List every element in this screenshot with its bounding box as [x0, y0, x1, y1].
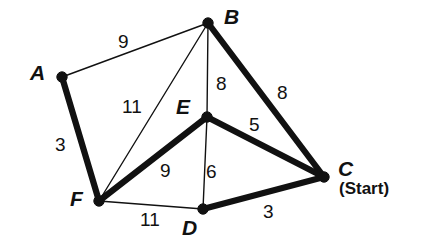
graph-node-f [94, 196, 104, 206]
node-label-d: D [182, 217, 197, 238]
edges-layer [62, 23, 324, 209]
edge-weight-e-c: 5 [249, 115, 260, 134]
graph-canvas [0, 0, 431, 252]
graph-diagram: ABC(Start)DEF938811569113 [0, 0, 431, 252]
graph-edge-f-d [99, 201, 203, 209]
node-label-b: B [224, 6, 239, 27]
graph-edge-b-e [207, 23, 208, 117]
edge-weight-b-c: 8 [277, 83, 288, 102]
node-label-f: F [70, 188, 83, 209]
graph-edge-a-f [62, 77, 99, 201]
edge-weight-d-c: 3 [263, 202, 274, 221]
edge-weight-e-d: 6 [206, 162, 217, 181]
graph-edge-a-b [62, 23, 208, 77]
graph-node-d [198, 204, 208, 214]
graph-node-e [202, 112, 212, 122]
edge-weight-b-e: 8 [216, 74, 227, 93]
node-label-e: E [176, 96, 190, 117]
graph-edge-b-f [99, 23, 208, 201]
graph-edge-e-c [207, 117, 324, 177]
edge-weight-a-f: 3 [55, 135, 66, 154]
edge-weight-a-b: 9 [118, 32, 129, 51]
node-label-c: C [338, 158, 353, 179]
edge-weight-e-f: 9 [160, 161, 171, 180]
graph-node-b [203, 18, 213, 28]
graph-node-c [319, 172, 329, 182]
graph-edge-b-c [208, 23, 324, 177]
graph-node-a [57, 72, 67, 82]
edge-weight-f-d: 11 [140, 210, 160, 229]
node-label-a: A [30, 62, 45, 83]
start-node-annotation: (Start) [339, 180, 389, 197]
edge-weight-b-f: 11 [122, 97, 142, 116]
graph-edge-e-f [99, 117, 207, 201]
